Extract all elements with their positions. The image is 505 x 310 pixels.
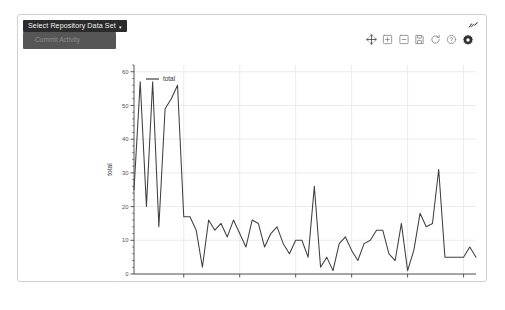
repository-dataset-dropdown[interactable]: Select Repository Data Set ▾ Commit Acti… <box>23 20 127 49</box>
screenshot-root: 0102030405060Mar17May17Jul17Sep17Nov17Ja… <box>0 0 505 310</box>
dropdown-toggle-button[interactable]: Select Repository Data Set ▾ <box>23 20 127 32</box>
svg-text:40: 40 <box>122 136 129 142</box>
svg-text:Jul17: Jul17 <box>289 280 303 281</box>
chart-card: 0102030405060Mar17May17Jul17Sep17Nov17Ja… <box>17 14 487 282</box>
svg-text:10: 10 <box>122 237 129 243</box>
expand-edit-icon[interactable] <box>465 19 481 31</box>
svg-text:Jan18: Jan18 <box>456 280 473 281</box>
settings-gear-icon[interactable] <box>461 33 474 46</box>
help-icon[interactable] <box>445 33 458 46</box>
svg-text:50: 50 <box>122 103 129 109</box>
autoscale-icon[interactable] <box>429 33 442 46</box>
dropdown-menu[interactable]: Commit Activity <box>23 32 116 49</box>
svg-text:60: 60 <box>122 69 129 75</box>
pan-icon[interactable] <box>365 33 378 46</box>
zoom-in-box-icon[interactable] <box>381 33 394 46</box>
svg-text:Mar17: Mar17 <box>175 280 192 281</box>
dropdown-button-label: Select Repository Data Set <box>28 20 116 32</box>
zoom-out-box-icon[interactable] <box>397 33 410 46</box>
caption-strip <box>0 292 505 310</box>
line-chart-svg[interactable]: 0102030405060Mar17May17Jul17Sep17Nov17Ja… <box>18 15 488 281</box>
menu-item-commit-activity[interactable]: Commit Activity <box>23 35 116 45</box>
svg-text:20: 20 <box>122 204 129 210</box>
plot-area[interactable]: 0102030405060Mar17May17Jul17Sep17Nov17Ja… <box>18 15 488 281</box>
svg-text:May17: May17 <box>231 280 249 281</box>
svg-text:0: 0 <box>125 271 129 277</box>
svg-text:Nov17: Nov17 <box>399 280 416 281</box>
chevron-down-icon: ▾ <box>119 24 122 29</box>
save-camera-icon[interactable] <box>413 33 426 46</box>
svg-text:30: 30 <box>122 170 129 176</box>
svg-text:Sep17: Sep17 <box>343 280 360 281</box>
svg-text:total: total <box>163 75 175 82</box>
svg-text:total: total <box>106 163 113 176</box>
plot-modebar[interactable] <box>365 33 474 46</box>
